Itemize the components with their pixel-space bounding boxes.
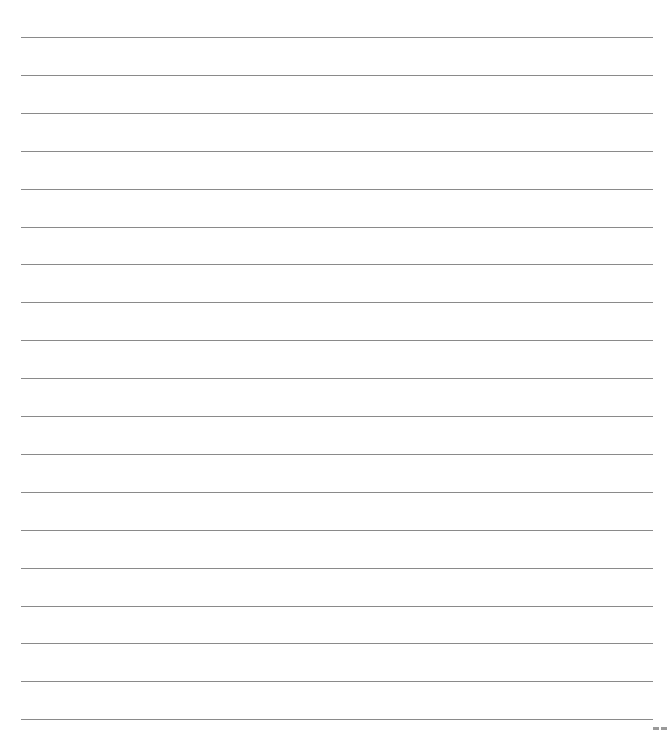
ruled-line (21, 189, 653, 190)
ruled-line (21, 719, 653, 720)
ruled-line (21, 681, 653, 682)
ruled-line (21, 340, 653, 341)
ruled-line (21, 416, 653, 417)
ruled-line (21, 151, 653, 152)
ruled-line (21, 568, 653, 569)
ruled-line (21, 37, 653, 38)
ruled-line (21, 227, 653, 228)
ruled-line (21, 606, 653, 607)
ruled-line (21, 643, 653, 644)
lined-page (0, 0, 671, 730)
ruled-line (21, 378, 653, 379)
ruled-line (21, 454, 653, 455)
ruled-line (21, 530, 653, 531)
ruled-line (21, 75, 653, 76)
ruled-line (21, 113, 653, 114)
ruled-line (21, 492, 653, 493)
ruled-line (21, 302, 653, 303)
ruled-line (21, 264, 653, 265)
